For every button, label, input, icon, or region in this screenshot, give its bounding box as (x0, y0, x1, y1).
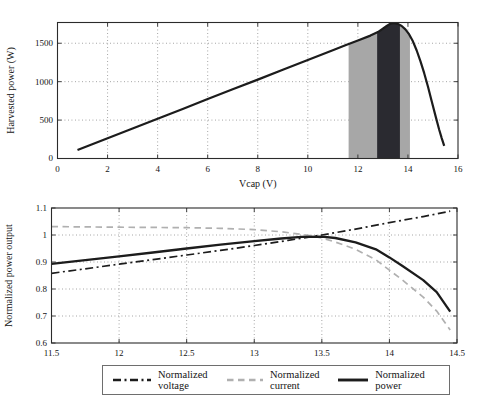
x-tick-label: 8 (256, 164, 261, 174)
y-tick-label: 1500 (35, 38, 54, 48)
x-tick-label: 2 (105, 164, 110, 174)
y-tick-label: 0.8 (36, 284, 48, 294)
normalized-current-line-sample (226, 375, 264, 385)
y-tick-label: 1000 (35, 77, 54, 87)
legend-label-normalized-voltage: Normalized voltage (158, 369, 226, 391)
legend-label-normalized-current: Normalized current (270, 369, 337, 391)
y-tick-label: 0.9 (36, 257, 48, 267)
legend-entry-normalized-power: Normalized power (337, 369, 440, 391)
y-tick-label: 1.1 (36, 203, 47, 213)
normalized-output-ylabel: Normalized power output (3, 224, 14, 327)
x-tick-label: 14 (385, 348, 395, 358)
legend: Normalized voltage Normalized current No… (102, 365, 450, 395)
normalized-voltage-line-sample (112, 375, 152, 385)
x-tick-label: 12 (115, 348, 124, 358)
y-tick-label: 500 (40, 115, 54, 125)
harvested-power-chart: 0246810121416050010001500Vcap (V)Harvest… (0, 0, 483, 196)
x-tick-label: 16 (454, 164, 464, 174)
y-tick-label: 0.7 (36, 311, 48, 321)
normalized-power-line (52, 237, 451, 312)
x-tick-label: 11.5 (44, 348, 60, 358)
x-tick-label: 13 (250, 348, 260, 358)
legend-label-normalized-power: Normalized power (375, 369, 440, 391)
legend-entry-normalized-voltage: Normalized voltage (112, 369, 226, 391)
figure-page: 0246810121416050010001500Vcap (V)Harvest… (0, 0, 483, 406)
harvested-power-ylabel: Harvested power (W) (5, 47, 17, 134)
y-tick-label: 0.6 (36, 338, 48, 348)
legend-entry-normalized-current: Normalized current (226, 369, 337, 391)
x-tick-label: 13.5 (314, 348, 330, 358)
x-tick-label: 6 (205, 164, 210, 174)
x-tick-label: 14 (403, 164, 413, 174)
x-tick-label: 14.5 (449, 348, 465, 358)
y-tick-label: 1 (43, 230, 48, 240)
y-tick-label: 0 (49, 153, 54, 163)
normalized-power-line-sample (337, 375, 369, 385)
x-tick-label: 12 (353, 164, 362, 174)
x-tick-label: 10 (303, 164, 313, 174)
operating-band-inner (377, 23, 400, 159)
x-tick-label: 0 (55, 164, 60, 174)
x-tick-label: 12.5 (179, 348, 195, 358)
harvested-power-xlabel: Vcap (V) (239, 178, 276, 190)
x-tick-label: 4 (155, 164, 160, 174)
